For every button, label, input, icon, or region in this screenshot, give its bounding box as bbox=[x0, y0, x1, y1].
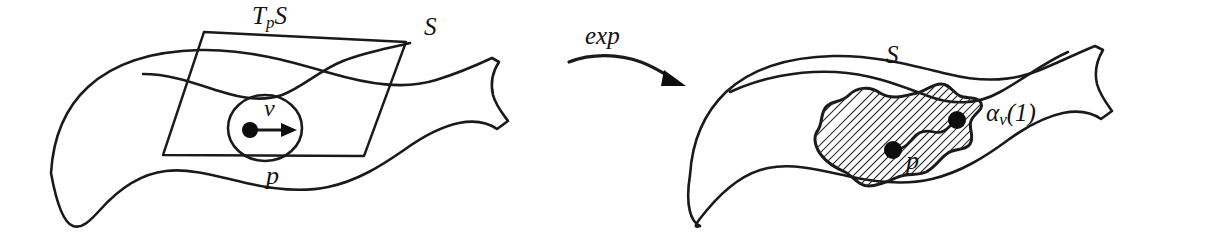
left-surface-group bbox=[51, 32, 508, 227]
geodesic-endpoint-label-subscript: v bbox=[999, 110, 1007, 129]
tangent-plane-label: TpS bbox=[252, 3, 287, 31]
tangent-vector-label: v bbox=[264, 96, 275, 120]
geodesic-endpoint-label-base: α bbox=[986, 99, 999, 126]
left-point-label: p bbox=[266, 163, 279, 189]
left-point-p-dot bbox=[242, 122, 258, 138]
tangent-vector-arrow-head bbox=[281, 123, 297, 137]
left-surface-label: S bbox=[424, 14, 437, 39]
exp-arrow-shaft bbox=[569, 56, 676, 81]
right-surface-label: S bbox=[886, 42, 899, 67]
region-hatching bbox=[760, 60, 1060, 200]
right-point-p-dot bbox=[884, 141, 902, 159]
geodesic-endpoint-label-tail: (1) bbox=[1007, 99, 1036, 126]
geodesic-endpoint-label: αv(1) bbox=[986, 100, 1036, 128]
tangent-plane-label-base: T bbox=[252, 2, 266, 29]
exp-arrow-head bbox=[661, 70, 686, 86]
right-point-label: p bbox=[906, 148, 919, 174]
tangent-plane-label-tail: S bbox=[274, 2, 287, 29]
exponential-map-figure: TpS S v p exp S p αv(1) bbox=[0, 0, 1211, 246]
exp-map-arrow-group bbox=[569, 56, 686, 86]
geodesic-endpoint-dot bbox=[948, 111, 966, 129]
exp-map-label: exp bbox=[585, 23, 620, 48]
right-surface-group bbox=[688, 46, 1112, 227]
left-surface-outline bbox=[51, 50, 508, 227]
